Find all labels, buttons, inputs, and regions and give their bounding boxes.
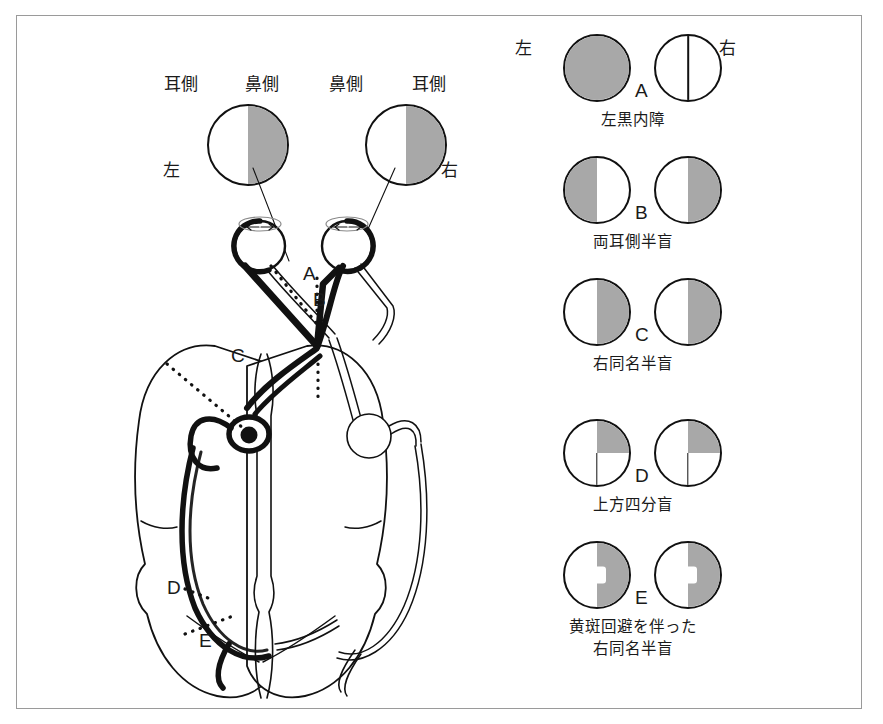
visual-pathway-diagram: 耳側 鼻側 鼻側 耳側 左 右 — [17, 16, 487, 710]
lesion-label-D: D — [167, 578, 181, 597]
vertical-midline — [687, 36, 689, 100]
shade-right-half — [688, 280, 720, 344]
lesion-label-E: E — [199, 631, 212, 650]
right-eyeball — [322, 217, 373, 271]
row-A-letter: A — [635, 80, 648, 102]
row-D-left-eye-field — [563, 419, 631, 487]
row-C-caption: 右同名半盲 — [445, 354, 821, 375]
macular-sparing-notch — [593, 567, 606, 584]
lesion-label-B: B — [313, 290, 326, 309]
shade-right-half — [688, 158, 720, 222]
row-E-left-eye-field — [563, 541, 631, 609]
row-C-left-eye-field — [563, 278, 631, 346]
vertical-midline-lower — [596, 453, 597, 485]
row-C-letter: C — [635, 324, 649, 346]
macular-sparing-notch — [684, 567, 697, 584]
row-B-right-eye-field — [654, 156, 722, 224]
lesion-label-C: C — [231, 346, 245, 365]
lesion-label-A: A — [303, 264, 316, 283]
row-E-right-eye-field — [654, 541, 722, 609]
row-D-right-eye-field — [654, 419, 722, 487]
shade-left-half — [565, 158, 597, 222]
row-D-letter: D — [635, 465, 649, 487]
shade-full — [565, 36, 629, 100]
legend-header-right: 右 — [719, 34, 736, 59]
legend-header-left: 左 — [515, 34, 532, 59]
visual-field-defect-legend: 左 右 A 左黒内障 B 両耳側半盲 — [487, 16, 863, 710]
row-B-left-eye-field — [563, 156, 631, 224]
row-E-caption-line1: 黄斑回避を伴った — [445, 617, 821, 638]
brain-outline — [135, 345, 387, 698]
shade-upper-right-quadrant — [688, 421, 720, 453]
row-A-right-eye-field — [654, 34, 722, 102]
row-D-caption: 上方四分盲 — [445, 495, 821, 516]
row-B-letter: B — [635, 202, 648, 224]
shade-right-half — [597, 280, 629, 344]
row-A-caption: 左黒内障 — [445, 110, 821, 131]
left-eyeball — [234, 217, 285, 272]
row-E-caption-line2: 右同名半盲 — [445, 639, 821, 660]
row-B-caption: 両耳側半盲 — [445, 232, 821, 253]
row-E-letter: E — [635, 587, 648, 609]
shade-upper-right-quadrant — [597, 421, 629, 453]
figure-frame: 耳側 鼻側 鼻側 耳側 左 右 — [16, 15, 862, 709]
vertical-midline-lower — [687, 453, 688, 485]
brain-pathway-illustration — [17, 16, 487, 710]
row-C-right-eye-field — [654, 278, 722, 346]
row-A-left-eye-field — [563, 34, 631, 102]
